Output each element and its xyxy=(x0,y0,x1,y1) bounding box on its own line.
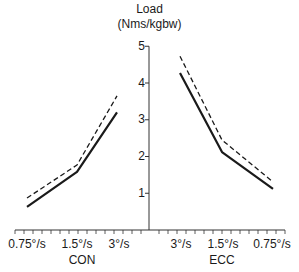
axes xyxy=(15,46,285,234)
series-ecc-dashed xyxy=(180,56,273,182)
data-lines xyxy=(27,56,273,207)
line-chart xyxy=(0,0,299,272)
series-con-solid xyxy=(27,112,117,206)
series-ecc-solid xyxy=(180,73,273,189)
series-con-dashed xyxy=(27,96,117,198)
